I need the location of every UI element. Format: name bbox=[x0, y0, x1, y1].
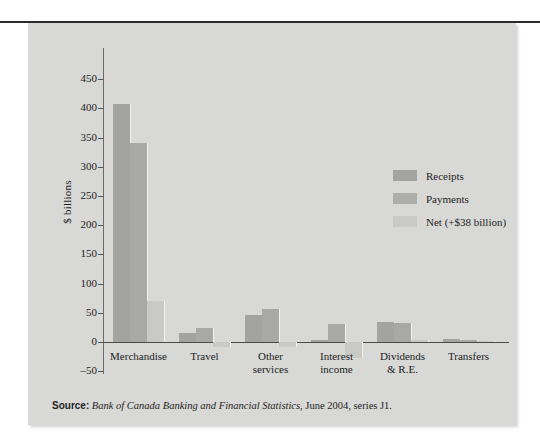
y-tick-label: 150 bbox=[57, 247, 97, 259]
legend-swatch-net bbox=[393, 216, 417, 227]
y-tick-mark bbox=[98, 167, 103, 168]
legend-label-payments: Payments bbox=[426, 193, 469, 205]
bar bbox=[130, 143, 148, 342]
y-axis-line bbox=[103, 48, 104, 374]
bar bbox=[328, 324, 346, 342]
source-detail: , June 2004, series J1. bbox=[300, 400, 392, 411]
bar bbox=[460, 340, 478, 342]
y-tick-mark bbox=[98, 196, 103, 197]
legend-item-net: Net (+$38 billion) bbox=[393, 212, 506, 231]
y-tick-mark bbox=[98, 254, 103, 255]
figure-root: $ billions 450400350300250200150100500–5… bbox=[0, 0, 540, 447]
y-tick-label: 300 bbox=[57, 160, 97, 172]
y-tick-mark bbox=[98, 313, 103, 314]
y-tick-mark bbox=[98, 342, 103, 343]
legend-item-receipts: Receipts bbox=[393, 166, 506, 185]
bar bbox=[262, 309, 280, 342]
bar bbox=[113, 104, 131, 342]
bar bbox=[443, 339, 461, 342]
bar bbox=[377, 322, 395, 342]
bar bbox=[179, 333, 197, 342]
bar bbox=[213, 342, 231, 347]
y-tick-label: 450 bbox=[57, 72, 97, 84]
bar bbox=[394, 323, 412, 342]
y-tick-label: 0 bbox=[57, 335, 97, 347]
y-tick-mark bbox=[98, 284, 103, 285]
y-tick-label: 400 bbox=[57, 101, 97, 113]
y-tick-label: 100 bbox=[57, 277, 97, 289]
y-tick-mark bbox=[98, 79, 103, 80]
y-tick-label: 350 bbox=[57, 131, 97, 143]
y-tick-label: –50 bbox=[57, 364, 97, 376]
legend-swatch-payments bbox=[393, 193, 417, 204]
bar bbox=[279, 342, 297, 347]
y-tick-mark bbox=[98, 108, 103, 109]
chart-legend: Receipts Payments Net (+$38 billion) bbox=[393, 166, 506, 235]
bar bbox=[311, 340, 329, 342]
source-note: Source: Bank of Canada Banking and Finan… bbox=[52, 400, 392, 411]
legend-item-payments: Payments bbox=[393, 189, 506, 208]
bar bbox=[196, 328, 214, 342]
legend-swatch-receipts bbox=[393, 170, 417, 181]
y-tick-mark bbox=[98, 225, 103, 226]
bar bbox=[411, 340, 429, 342]
legend-label-receipts: Receipts bbox=[426, 170, 464, 182]
y-tick-mark bbox=[98, 138, 103, 139]
bar bbox=[147, 301, 165, 342]
y-tick-label: 200 bbox=[57, 218, 97, 230]
y-tick-label: 250 bbox=[57, 189, 97, 201]
y-tick-mark bbox=[98, 371, 103, 372]
legend-label-net: Net (+$38 billion) bbox=[426, 216, 506, 228]
bar bbox=[477, 341, 495, 343]
y-tick-label: 50 bbox=[57, 306, 97, 318]
source-prefix: Source: bbox=[52, 400, 89, 411]
x-category-label: Transfers bbox=[429, 350, 508, 363]
source-publication: Bank of Canada Banking and Financial Sta… bbox=[92, 400, 300, 411]
x-axis-zero-line bbox=[103, 342, 509, 343]
bar bbox=[245, 315, 263, 342]
